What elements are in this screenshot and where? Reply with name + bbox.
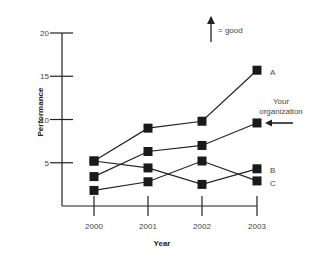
data-point-marker: [253, 164, 262, 173]
data-point-marker: [198, 117, 207, 126]
x-tick-label: 2002: [193, 222, 211, 231]
data-point-marker: [253, 118, 262, 127]
y-tick-label: 15: [40, 72, 49, 81]
up-arrow-icon: [207, 16, 215, 42]
series-label-a: A: [270, 68, 276, 77]
data-point-marker: [253, 66, 262, 75]
line-chart: 5101520 2000200120022003 Performance Yea…: [0, 0, 316, 266]
your-org-label-line2: organization: [259, 107, 303, 116]
x-tick-label: 2000: [85, 222, 103, 231]
data-point-marker: [198, 180, 207, 189]
good-annotation: = good: [218, 26, 243, 35]
your-org-label-line1: Your: [273, 97, 290, 106]
series-label-b: B: [270, 166, 275, 175]
data-point-marker: [90, 172, 99, 181]
y-axis-title: Performance: [36, 87, 45, 136]
data-point-marker: [253, 176, 262, 185]
y-tick-label: 20: [40, 29, 49, 38]
left-arrow-icon: [265, 120, 293, 127]
x-tick-label: 2003: [248, 222, 266, 231]
x-tick-label: 2001: [139, 222, 157, 231]
data-point-marker: [144, 147, 153, 156]
series-label-c: C: [270, 179, 276, 188]
series-line: [94, 123, 257, 177]
y-ticks: 5101520: [40, 29, 73, 168]
y-tick-label: 5: [45, 159, 50, 168]
x-axis-title: Year: [154, 239, 171, 248]
x-ticks: 2000200120022003: [85, 196, 266, 231]
data-point-marker: [198, 141, 207, 150]
data-point-marker: [144, 124, 153, 133]
data-point-marker: [90, 186, 99, 195]
series-markers: [90, 66, 262, 195]
data-point-marker: [90, 157, 99, 166]
data-point-marker: [144, 163, 153, 172]
data-point-marker: [144, 177, 153, 186]
series-line: [94, 70, 257, 161]
data-point-marker: [198, 157, 207, 166]
series-lines: [94, 70, 257, 190]
